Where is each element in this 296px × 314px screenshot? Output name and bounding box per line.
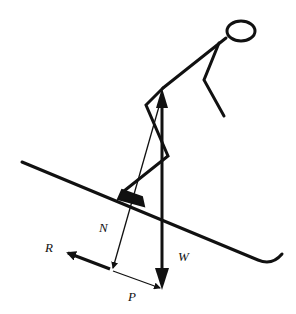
label-r: R (44, 240, 53, 255)
head (227, 21, 255, 41)
normal-vector (113, 96, 162, 268)
label-n: N (98, 220, 109, 235)
skier-force-diagram: N W R P (0, 0, 296, 314)
resistance-vector (68, 253, 110, 269)
slope-line (22, 162, 282, 262)
label-w: W (178, 249, 190, 264)
skier-figure (124, 21, 255, 191)
parallel-vector (113, 271, 160, 288)
label-p: P (127, 289, 136, 304)
